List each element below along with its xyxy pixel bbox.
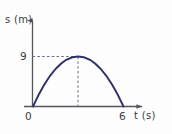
graph-figure: s (m) t (s) 9 0 6 [0, 0, 172, 134]
x-tick-label-6: 6 [119, 111, 126, 122]
x-axis-label: t (s) [134, 111, 156, 121]
origin-label: 0 [25, 111, 32, 122]
y-tick-label-9: 9 [20, 51, 27, 62]
y-axis-label: s (m) [5, 15, 32, 25]
